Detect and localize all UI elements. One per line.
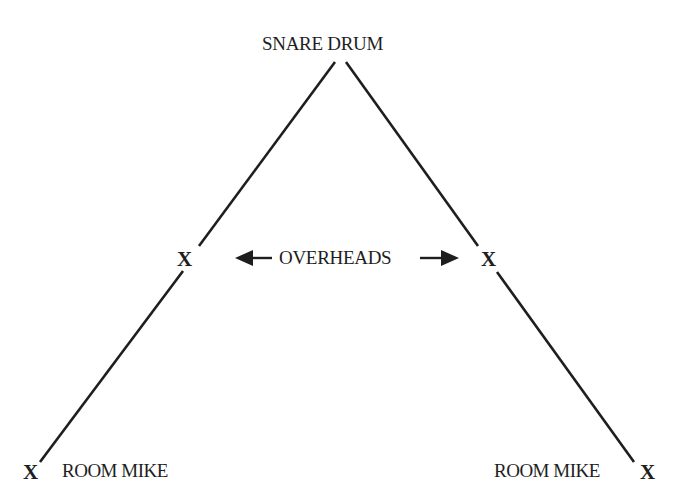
left-line-upper	[199, 62, 335, 246]
mic-placement-diagram: SNARE DRUM X OVERHEADS X X ROOM MIKE ROO…	[0, 0, 677, 504]
room-left-marker: X	[23, 462, 38, 483]
overheads-label: OVERHEADS	[279, 248, 391, 267]
arrow-right-icon	[420, 250, 459, 266]
overhead-right-marker: X	[481, 249, 496, 270]
right-line-upper	[346, 62, 478, 246]
overhead-left-marker: X	[177, 249, 192, 270]
left-line-lower	[40, 271, 183, 462]
room-mike-right-label: ROOM MIKE	[494, 461, 600, 480]
arrow-left-icon	[235, 250, 272, 266]
room-mike-left-label: ROOM MIKE	[62, 461, 168, 480]
room-right-marker: X	[640, 462, 655, 483]
snare-drum-label: SNARE DRUM	[262, 34, 383, 53]
right-line-lower	[497, 272, 634, 462]
